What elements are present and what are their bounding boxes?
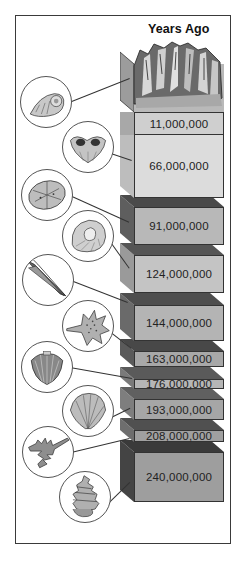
spiral-gastropod-fossil-icon [59,471,111,523]
layer-front-face: 124,000,000 [134,255,224,293]
ammonite-fossil-icon [20,76,72,128]
layer-front-face: 163,000,000 [134,351,224,367]
rock-layer-8: 193,000,000 [120,387,224,420]
rock-layer-4: 124,000,000 [120,243,224,293]
layer-age-label: 124,000,000 [146,268,212,280]
layer-age-label: 176,000,000 [146,378,212,390]
layer-age-label: 193,000,000 [146,404,212,416]
rock-layer-6: 163,000,000 [120,339,224,367]
layer-age-label: 163,000,000 [146,353,212,365]
layer-front-face: 176,000,000 [134,379,224,389]
rock-outcrop-illustration [120,40,224,112]
rock-layer-3: 91,000,000 [120,195,224,245]
rock-layer-5: 144,000,000 [120,293,224,341]
fan-shell-fossil-icon [21,341,73,393]
layer-front-face: 91,000,000 [134,207,224,245]
rock-layer-9: 208,000,000 [120,418,224,442]
layer-age-label: 11,000,000 [150,118,209,130]
layer-age-label: 208,000,000 [146,430,212,442]
layer-age-label: 144,000,000 [146,317,212,329]
layer-front-face: 66,000,000 [134,134,224,198]
layer-front-face: 193,000,000 [134,399,224,420]
sea-urchin-fossil-icon [21,169,73,221]
layer-front-face: 144,000,000 [134,305,224,341]
belemnite-fossil-icon [22,254,74,306]
layer-age-label: 66,000,000 [149,160,209,172]
layer-side-face [120,112,134,135]
layer-front-face: 208,000,000 [134,430,224,442]
nautilus-fossil-icon [62,210,114,262]
branching-coral-fossil-icon [22,426,74,478]
spiny-shell-fossil-icon [62,300,114,352]
layer-front-face: 11,000,000 [134,112,224,135]
rock-layer-10: 240,000,000 [120,440,224,502]
layer-front-face: 240,000,000 [134,452,224,502]
scallop-fossil-icon [62,385,114,437]
rock-layer-7: 176,000,000 [120,367,224,389]
rock-layer-1: 11,000,000 [120,112,224,135]
title-years-ago: Years Ago [148,22,210,36]
layer-age-label: 91,000,000 [149,220,209,232]
layer-age-label: 240,000,000 [146,471,212,483]
brachiopod-fossil-icon [62,121,114,173]
layer-top-face [120,293,224,305]
